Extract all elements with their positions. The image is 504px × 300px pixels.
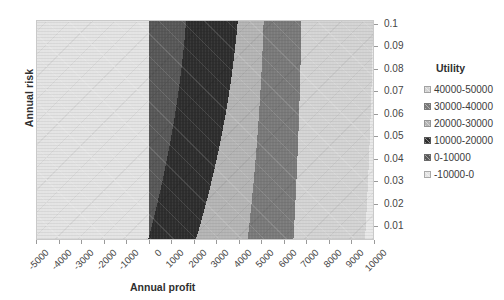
x-axis-tick-label: -4000 <box>48 247 73 272</box>
y-axis-tick <box>374 181 378 182</box>
y-axis-tick-label: 0.04 <box>384 153 403 164</box>
plot-area <box>36 20 374 240</box>
x-axis-tick <box>36 240 37 244</box>
y-axis-tick-label: 0.03 <box>384 175 403 186</box>
utility-contour-surface <box>37 21 373 239</box>
x-axis-tick <box>104 240 105 244</box>
x-axis-tick <box>126 240 127 244</box>
legend-swatch-icon <box>424 171 431 178</box>
legend-swatch-icon <box>424 154 431 161</box>
legend: Utility 40000-5000030000-4000020000-3000… <box>424 62 504 183</box>
x-axis-tick <box>261 240 262 244</box>
chart-container: Annual risk -5000-4000-3000-2000-1000010… <box>0 0 504 300</box>
y-axis-tick-label: 0.07 <box>384 85 403 96</box>
y-axis-tick-label: 0.02 <box>384 198 403 209</box>
x-axis-tick-label: 1000 <box>163 247 186 270</box>
x-axis-tick <box>329 240 330 244</box>
legend-item: 10000-20000 <box>424 132 504 149</box>
y-axis-tick-label: 0.1 <box>384 18 398 29</box>
y-axis-tick <box>374 226 378 227</box>
y-axis-tick <box>374 46 378 47</box>
y-axis-ticks <box>374 20 380 240</box>
y-axis-title: Annual risk <box>23 43 35 153</box>
x-axis-tick <box>216 240 217 244</box>
x-axis-tick <box>59 240 60 244</box>
legend-item: 40000-50000 <box>424 81 504 98</box>
x-axis-tick <box>239 240 240 244</box>
legend-item: 0-10000 <box>424 149 504 166</box>
y-axis-tick <box>374 204 378 205</box>
x-axis-tick-label: 6000 <box>276 247 299 270</box>
x-axis-tick <box>374 240 375 244</box>
x-axis-tick <box>351 240 352 244</box>
x-axis-tick-label: 0 <box>152 247 164 259</box>
x-axis-tick-label: 4000 <box>231 247 254 270</box>
legend-item-label: -10000-0 <box>434 170 474 180</box>
legend-item: 30000-40000 <box>424 98 504 115</box>
x-axis-tick <box>149 240 150 244</box>
x-axis-tick-label: -2000 <box>93 247 118 272</box>
y-axis-tick <box>374 136 378 137</box>
y-axis-tick-label: 0.06 <box>384 108 403 119</box>
x-axis-title: Annual profit <box>130 281 195 293</box>
x-axis-tick-label: -5000 <box>26 247 51 272</box>
region-40000-50000 <box>293 21 373 239</box>
legend-swatch-icon <box>424 137 431 144</box>
x-axis-tick-label: 5000 <box>253 247 276 270</box>
legend-item: 20000-30000 <box>424 115 504 132</box>
y-axis-tick <box>374 91 378 92</box>
legend-item-label: 30000-40000 <box>434 102 493 112</box>
x-axis-tick <box>171 240 172 244</box>
x-axis-tick <box>306 240 307 244</box>
y-axis-tick-label: 0.01 <box>384 220 403 231</box>
y-axis-tick <box>374 159 378 160</box>
x-axis-tick-label: 7000 <box>298 247 321 270</box>
legend-item-label: 10000-20000 <box>434 136 493 146</box>
x-axis-tick-label: 8000 <box>321 247 344 270</box>
x-axis-tick <box>194 240 195 244</box>
legend-item-label: 20000-30000 <box>434 119 493 129</box>
legend-swatch-icon <box>424 103 431 110</box>
plot-frame <box>36 20 374 240</box>
legend-swatch-icon <box>424 120 431 127</box>
x-axis-tick-label: 10000 <box>362 247 388 273</box>
legend-item-label: 0-10000 <box>434 153 471 163</box>
y-axis-tick <box>374 114 378 115</box>
x-axis-tick <box>284 240 285 244</box>
x-axis-tick-label: 3000 <box>208 247 231 270</box>
x-axis-tick-label: -3000 <box>71 247 96 272</box>
legend-title: Utility <box>436 62 504 74</box>
y-axis-tick-label: 0.05 <box>384 130 403 141</box>
legend-items: 40000-5000030000-4000020000-3000010000-2… <box>424 81 504 183</box>
x-axis-tick <box>81 240 82 244</box>
x-axis-ticks <box>36 240 374 246</box>
x-axis-tick-label: 2000 <box>186 247 209 270</box>
y-axis-tick-label: 0.09 <box>384 40 403 51</box>
y-axis-tick-label: 0.08 <box>384 63 403 74</box>
legend-swatch-icon <box>424 86 431 93</box>
legend-item-label: 40000-50000 <box>434 85 493 95</box>
region--10000-0 <box>37 21 149 239</box>
y-axis-tick <box>374 69 378 70</box>
y-axis-tick <box>374 24 378 25</box>
legend-item: -10000-0 <box>424 166 504 183</box>
x-axis-tick-label: -1000 <box>116 247 141 272</box>
